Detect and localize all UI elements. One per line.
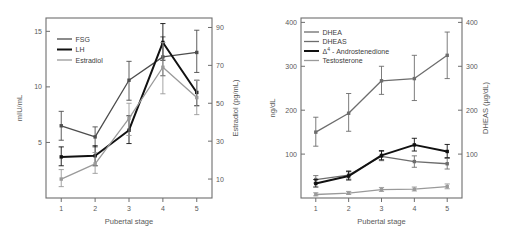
x-axis-tick-label: 2 bbox=[347, 205, 351, 212]
data-point-marker bbox=[413, 188, 416, 191]
y2-axis-tick-label: 70 bbox=[216, 62, 224, 69]
x-axis-tick-label: 4 bbox=[412, 205, 416, 212]
y-axis-tick-label: 5 bbox=[38, 139, 42, 146]
data-point-marker bbox=[413, 160, 416, 163]
data-point-marker bbox=[446, 162, 449, 165]
data-point-marker bbox=[60, 155, 63, 158]
x-axis-tick-label: 5 bbox=[445, 205, 449, 212]
chart-legend: DHEADHEASΔ4 - AndrostenedioneTestosteron… bbox=[304, 29, 389, 65]
y2-axis-tick-label: 90 bbox=[216, 24, 224, 31]
x-axis-tick-label: 3 bbox=[380, 205, 384, 212]
legend-label: Δ4 - Androstenedione bbox=[323, 46, 390, 55]
x-axis-tick-label: 1 bbox=[59, 205, 63, 212]
data-point-marker bbox=[93, 162, 96, 165]
data-point-marker bbox=[60, 124, 63, 127]
legend-label: DHEAS bbox=[323, 38, 347, 45]
data-point-marker bbox=[347, 191, 350, 194]
data-point-marker bbox=[347, 112, 350, 115]
data-point-marker bbox=[161, 66, 164, 69]
data-point-marker bbox=[314, 130, 317, 133]
y-axis-tick-label: 15 bbox=[34, 28, 42, 35]
data-point-marker bbox=[446, 54, 449, 57]
data-point-marker bbox=[314, 182, 317, 185]
gonadotropin-chart: 51015103050709012345Pubertal stagemIU/mL… bbox=[0, 0, 255, 247]
data-point-marker bbox=[93, 135, 96, 138]
y2-axis-tick-label: 300 bbox=[466, 63, 478, 70]
data-point-marker bbox=[314, 193, 317, 196]
data-point-marker bbox=[127, 79, 130, 82]
data-point-marker bbox=[347, 174, 350, 177]
y-axis-tick-label: 200 bbox=[285, 107, 297, 114]
y-axis-label: mIU/mL bbox=[15, 95, 24, 121]
x-axis-tick-label: 4 bbox=[161, 205, 165, 212]
y2-axis-tick-label: 100 bbox=[466, 151, 478, 158]
right-androgen-panel: 10020030040010020030040012345Pubertal st… bbox=[256, 0, 511, 247]
x-axis-tick-label: 1 bbox=[314, 205, 318, 212]
y2-axis-tick-label: 200 bbox=[466, 107, 478, 114]
left-gonadotropin-panel: 51015103050709012345Pubertal stagemIU/mL… bbox=[0, 0, 255, 247]
legend-label: Estradiol bbox=[76, 57, 104, 64]
data-point-marker bbox=[446, 185, 449, 188]
data-point-marker bbox=[413, 77, 416, 80]
legend-label: LH bbox=[76, 46, 85, 53]
data-point-marker bbox=[127, 117, 130, 120]
legend-label: FSG bbox=[76, 36, 90, 43]
data-point-marker bbox=[380, 188, 383, 191]
chart-legend: FSGLHEstradiol bbox=[57, 36, 103, 64]
legend-label: DHEA bbox=[323, 29, 343, 36]
data-point-marker bbox=[380, 79, 383, 82]
x-axis-label: Pubertal stage bbox=[105, 217, 153, 226]
y-axis-tick-label: 300 bbox=[285, 63, 297, 70]
series-testosterone bbox=[313, 184, 450, 196]
figure-container: 51015103050709012345Pubertal stagemIU/mL… bbox=[0, 0, 511, 247]
legend-label: Testosterone bbox=[323, 57, 363, 64]
data-point-marker bbox=[446, 150, 449, 153]
y2-axis-tick-label: 10 bbox=[216, 176, 224, 183]
x-axis-tick-label: 3 bbox=[127, 205, 131, 212]
data-point-marker bbox=[413, 143, 416, 146]
data-point-marker bbox=[195, 96, 198, 99]
y-axis-tick-label: 100 bbox=[285, 151, 297, 158]
x-axis-tick-label: 2 bbox=[93, 205, 97, 212]
androgen-chart: 10020030040010020030040012345Pubertal st… bbox=[256, 0, 511, 247]
y2-axis-tick-label: 50 bbox=[216, 100, 224, 107]
data-point-marker bbox=[60, 177, 63, 180]
y-axis-tick-label: 10 bbox=[34, 83, 42, 90]
x-axis-tick-label: 5 bbox=[195, 205, 199, 212]
y-axis-label: ng/dL bbox=[268, 99, 277, 118]
y-axis-tick-label: 400 bbox=[285, 19, 297, 26]
y2-axis-tick-label: 30 bbox=[216, 138, 224, 145]
y2-axis-label: DHEAS (µg/dL) bbox=[481, 82, 490, 134]
x-axis-label: Pubertal stage bbox=[357, 217, 405, 226]
data-point-marker bbox=[195, 51, 198, 54]
y2-axis-tick-label: 400 bbox=[466, 19, 478, 26]
y2-axis-label: Estradiol (pg/mL) bbox=[231, 79, 240, 137]
data-point-marker bbox=[380, 154, 383, 157]
